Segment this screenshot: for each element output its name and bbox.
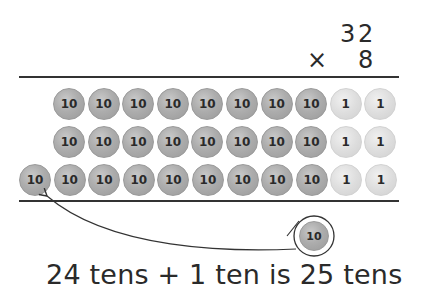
regrouped-ten-counter: 10	[299, 221, 329, 251]
regroup-arrow-icon	[0, 0, 424, 290]
caption: 24 tens + 1 ten is 25 tens	[46, 259, 402, 290]
